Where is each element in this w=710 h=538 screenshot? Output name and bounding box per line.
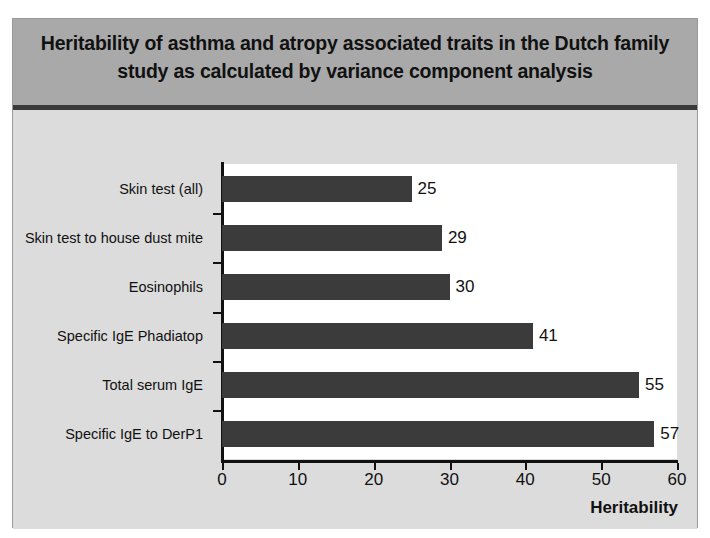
x-axis-tick [374,463,376,470]
y-axis-tick [213,213,222,215]
x-axis-tick [601,463,603,470]
x-axis-tick-label: 30 [440,470,459,490]
plot-region [222,164,677,459]
bar [222,372,639,398]
x-axis-tick [222,463,224,470]
y-axis-tick [213,312,222,314]
bar-value-label: 57 [660,424,679,444]
category-label: Specific IgE Phadiatop [0,328,203,344]
page-title: Heritability of asthma and atropy associ… [29,29,681,85]
chart-area: 252930415557 Skin test (all)Skin test to… [13,110,697,529]
y-axis-tick [213,410,222,412]
x-axis-title: Heritability [433,498,678,518]
bar-value-label: 55 [645,375,664,395]
title-band: Heritability of asthma and atropy associ… [13,19,697,105]
x-axis-tick [525,463,527,470]
bar-value-label: 25 [418,179,437,199]
bar-value-label: 41 [539,326,558,346]
x-axis-tick [450,463,452,470]
y-axis-tick [213,262,222,264]
x-axis-tick [298,463,300,470]
category-label: Specific IgE to DerP1 [0,426,203,442]
x-axis-tick-label: 50 [592,470,611,490]
x-axis-tick-label: 60 [668,470,687,490]
bar-value-label: 30 [456,277,475,297]
bar [222,421,654,447]
x-axis-tick-label: 10 [288,470,307,490]
bar [222,274,450,300]
category-label: Skin test to house dust mite [0,230,203,246]
y-axis-tick [213,361,222,363]
slide-panel: Heritability of asthma and atropy associ… [12,18,698,528]
bar [222,176,412,202]
category-label: Skin test (all) [0,181,203,197]
x-axis-tick-label: 20 [364,470,383,490]
x-axis-tick [677,463,679,470]
x-axis-tick-label: 40 [516,470,535,490]
x-axis-tick-label: 0 [217,470,226,490]
category-label: Total serum IgE [0,377,203,393]
bar-value-label: 29 [448,228,467,248]
bar [222,225,442,251]
bar [222,323,533,349]
category-label: Eosinophils [0,279,203,295]
